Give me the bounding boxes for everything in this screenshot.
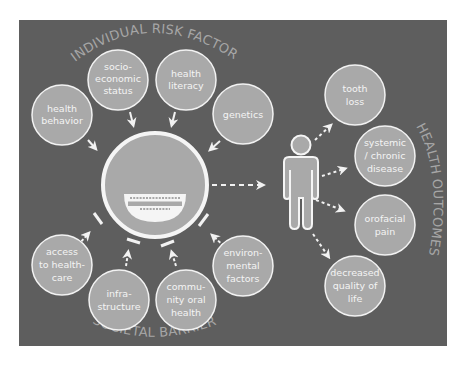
svg-text:care: care: [52, 272, 73, 283]
node-systemic-chronic-disease: systemic / chronic disease: [355, 126, 415, 186]
svg-text:economic: economic: [95, 73, 141, 84]
svg-text:mental: mental: [226, 260, 259, 271]
svg-text:literacy: literacy: [168, 80, 204, 91]
svg-text:structure: structure: [97, 301, 140, 312]
svg-text:genetics: genetics: [223, 109, 263, 120]
node-socio-economic-status: socio- economic status: [88, 50, 148, 110]
svg-text:quality of: quality of: [333, 280, 378, 291]
svg-text:health: health: [47, 103, 77, 114]
svg-text:systemic: systemic: [364, 137, 406, 148]
svg-text:to health-: to health-: [39, 259, 85, 270]
svg-text:factors: factors: [227, 273, 260, 284]
svg-text:commu-: commu-: [167, 281, 206, 292]
node-environmental-factors: environ- mental factors: [213, 236, 273, 296]
svg-text:loss: loss: [346, 96, 364, 107]
svg-text:socio-: socio-: [104, 61, 132, 72]
svg-text:environ-: environ-: [223, 247, 262, 258]
svg-text:pain: pain: [375, 226, 396, 237]
svg-text:health: health: [171, 68, 201, 79]
svg-text:access: access: [46, 246, 78, 257]
svg-text:behavior: behavior: [41, 115, 83, 126]
node-orofacial-pain: orofacial pain: [355, 195, 415, 255]
node-tooth-loss: tooth loss: [325, 65, 385, 125]
node-health-literacy: health literacy: [156, 50, 216, 110]
svg-text:tooth: tooth: [342, 83, 367, 94]
node-community-oral-health: commu- nity oral health: [156, 270, 216, 330]
node-health-behavior: health behavior: [32, 85, 92, 145]
svg-text:disease: disease: [367, 163, 403, 174]
svg-text:life: life: [348, 293, 363, 304]
oral-health-diagram: INDIVIDUAL RISK FACTORS SOCIETAL BARRIER…: [0, 0, 465, 379]
node-access-to-healthcare: access to health- care: [32, 235, 92, 295]
svg-text:status: status: [103, 85, 132, 96]
svg-text:nity oral: nity oral: [166, 294, 205, 305]
svg-text:/ chronic: / chronic: [365, 150, 406, 161]
svg-text:health: health: [171, 307, 201, 318]
svg-text:infra-: infra-: [106, 288, 131, 299]
svg-text:decreased: decreased: [330, 267, 379, 278]
center-node: [103, 133, 207, 237]
node-decreased-quality-of-life: decreased quality of life: [325, 256, 385, 316]
svg-text:orofacial: orofacial: [365, 213, 406, 224]
node-infrastructure: infra- structure: [89, 270, 149, 330]
node-genetics: genetics: [213, 84, 273, 144]
